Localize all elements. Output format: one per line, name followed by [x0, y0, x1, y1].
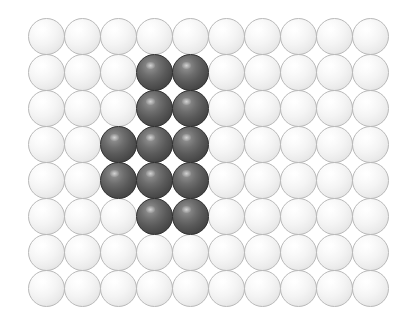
matrix-sphere-r6-c9	[316, 198, 353, 235]
specular-highlight-icon	[218, 134, 227, 141]
specular-highlight-icon	[182, 242, 191, 249]
matrix-sphere-r8-c9	[316, 270, 353, 307]
specular-highlight-icon	[146, 170, 155, 177]
substituted-sphere-r6-c4	[136, 198, 173, 235]
specular-highlight-icon	[362, 134, 371, 141]
matrix-sphere-r4-c7	[244, 126, 281, 163]
matrix-sphere-r4-c2	[64, 126, 101, 163]
specular-highlight-icon	[74, 170, 83, 177]
matrix-sphere-r7-c8	[280, 234, 317, 271]
specular-highlight-icon	[146, 134, 155, 141]
specular-highlight-icon	[218, 206, 227, 213]
substituted-sphere-r2-c5	[172, 54, 209, 91]
specular-highlight-icon	[290, 278, 299, 285]
specular-highlight-icon	[362, 62, 371, 69]
specular-highlight-icon	[38, 278, 47, 285]
matrix-sphere-r6-c2	[64, 198, 101, 235]
matrix-sphere-r1-c2	[64, 18, 101, 55]
specular-highlight-icon	[74, 98, 83, 105]
specular-highlight-icon	[110, 98, 119, 105]
specular-highlight-icon	[254, 170, 263, 177]
specular-highlight-icon	[254, 26, 263, 33]
specular-highlight-icon	[326, 170, 335, 177]
specular-highlight-icon	[74, 26, 83, 33]
specular-highlight-icon	[218, 62, 227, 69]
specular-highlight-icon	[254, 242, 263, 249]
matrix-sphere-r7-c3	[100, 234, 137, 271]
matrix-sphere-r8-c6	[208, 270, 245, 307]
specular-highlight-icon	[326, 278, 335, 285]
specular-highlight-icon	[110, 62, 119, 69]
matrix-sphere-r1-c7	[244, 18, 281, 55]
matrix-sphere-r7-c9	[316, 234, 353, 271]
specular-highlight-icon	[74, 242, 83, 249]
specular-highlight-icon	[326, 134, 335, 141]
matrix-sphere-r1-c10	[352, 18, 389, 55]
specular-highlight-icon	[326, 62, 335, 69]
matrix-sphere-r6-c7	[244, 198, 281, 235]
matrix-sphere-r5-c9	[316, 162, 353, 199]
matrix-sphere-r1-c5	[172, 18, 209, 55]
matrix-sphere-r1-c4	[136, 18, 173, 55]
matrix-sphere-r4-c6	[208, 126, 245, 163]
matrix-sphere-r1-c9	[316, 18, 353, 55]
specular-highlight-icon	[218, 26, 227, 33]
matrix-sphere-r8-c3	[100, 270, 137, 307]
specular-highlight-icon	[182, 26, 191, 33]
matrix-sphere-r2-c3	[100, 54, 137, 91]
specular-highlight-icon	[38, 134, 47, 141]
specular-highlight-icon	[146, 62, 155, 69]
matrix-sphere-r6-c3	[100, 198, 137, 235]
matrix-sphere-r2-c7	[244, 54, 281, 91]
specular-highlight-icon	[254, 278, 263, 285]
specular-highlight-icon	[290, 242, 299, 249]
specular-highlight-icon	[254, 206, 263, 213]
specular-highlight-icon	[182, 62, 191, 69]
substituted-sphere-r5-c5	[172, 162, 209, 199]
specular-highlight-icon	[146, 278, 155, 285]
matrix-sphere-r3-c3	[100, 90, 137, 127]
matrix-sphere-r8-c10	[352, 270, 389, 307]
specular-highlight-icon	[110, 134, 119, 141]
specular-highlight-icon	[290, 134, 299, 141]
specular-highlight-icon	[182, 134, 191, 141]
matrix-sphere-r5-c7	[244, 162, 281, 199]
specular-highlight-icon	[362, 242, 371, 249]
specular-highlight-icon	[146, 26, 155, 33]
substituted-sphere-r4-c4	[136, 126, 173, 163]
matrix-sphere-r4-c1	[28, 126, 65, 163]
matrix-sphere-r8-c4	[136, 270, 173, 307]
specular-highlight-icon	[38, 242, 47, 249]
specular-highlight-icon	[326, 242, 335, 249]
specular-highlight-icon	[254, 62, 263, 69]
matrix-sphere-r5-c10	[352, 162, 389, 199]
matrix-sphere-r7-c6	[208, 234, 245, 271]
specular-highlight-icon	[290, 170, 299, 177]
specular-highlight-icon	[110, 206, 119, 213]
matrix-sphere-r7-c10	[352, 234, 389, 271]
specular-highlight-icon	[182, 278, 191, 285]
specular-highlight-icon	[218, 242, 227, 249]
specular-highlight-icon	[326, 26, 335, 33]
specular-highlight-icon	[290, 98, 299, 105]
specular-highlight-icon	[38, 62, 47, 69]
specular-highlight-icon	[110, 278, 119, 285]
specular-highlight-icon	[290, 62, 299, 69]
specular-highlight-icon	[290, 206, 299, 213]
substituted-sphere-r4-c3	[100, 126, 137, 163]
matrix-sphere-r2-c9	[316, 54, 353, 91]
specular-highlight-icon	[218, 170, 227, 177]
substituted-sphere-r3-c5	[172, 90, 209, 127]
matrix-sphere-r4-c9	[316, 126, 353, 163]
matrix-sphere-r7-c2	[64, 234, 101, 271]
matrix-sphere-r5-c1	[28, 162, 65, 199]
matrix-sphere-r7-c4	[136, 234, 173, 271]
substituted-sphere-r4-c5	[172, 126, 209, 163]
specular-highlight-icon	[74, 278, 83, 285]
matrix-sphere-r6-c1	[28, 198, 65, 235]
specular-highlight-icon	[110, 170, 119, 177]
specular-highlight-icon	[362, 98, 371, 105]
matrix-sphere-r8-c2	[64, 270, 101, 307]
specular-highlight-icon	[254, 134, 263, 141]
specular-highlight-icon	[326, 98, 335, 105]
